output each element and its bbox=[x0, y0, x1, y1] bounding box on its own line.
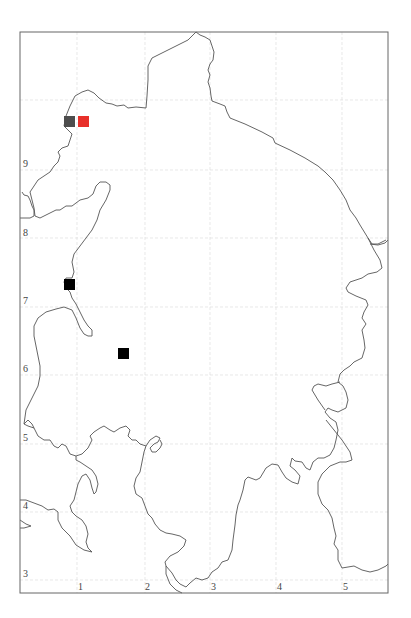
x-tick-label: 3 bbox=[211, 581, 216, 592]
y-tick-label: 3 bbox=[23, 568, 28, 579]
x-tick-label: 4 bbox=[277, 581, 282, 592]
marker-red[interactable] bbox=[78, 116, 89, 127]
y-tick-label: 5 bbox=[23, 432, 28, 443]
x-tick-label: 2 bbox=[145, 581, 150, 592]
x-axis-labels: 1 2 3 4 5 bbox=[78, 581, 348, 592]
coastline-northwest bbox=[20, 192, 34, 218]
marker-black[interactable] bbox=[64, 279, 75, 290]
y-tick-label: 9 bbox=[23, 158, 28, 169]
coastline-southwest bbox=[20, 456, 98, 552]
y-tick-label: 7 bbox=[23, 295, 28, 306]
y-tick-label: 6 bbox=[23, 363, 28, 374]
map-frame bbox=[20, 32, 388, 593]
coastline-main bbox=[24, 32, 386, 587]
coastlines bbox=[20, 32, 388, 593]
y-tick-label: 4 bbox=[23, 500, 28, 511]
distribution-map: 9 8 7 6 5 4 3 1 2 3 4 5 bbox=[0, 0, 411, 618]
marker-gray[interactable] bbox=[64, 116, 75, 127]
y-tick-label: 8 bbox=[23, 227, 28, 238]
x-tick-label: 1 bbox=[78, 581, 83, 592]
marker-black[interactable] bbox=[118, 348, 129, 359]
x-tick-label: 5 bbox=[343, 581, 348, 592]
record-markers bbox=[64, 116, 129, 359]
coastline-south bbox=[166, 566, 182, 593]
y-axis-labels: 9 8 7 6 5 4 3 bbox=[23, 158, 28, 579]
gridlines bbox=[20, 32, 388, 593]
coastline-southeast bbox=[312, 382, 388, 572]
